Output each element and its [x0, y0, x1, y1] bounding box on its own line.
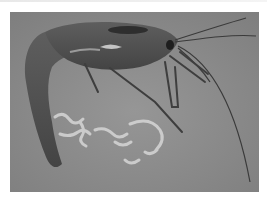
- shrimp-photo: shrimp: [10, 12, 259, 192]
- shrimp-illustration: [10, 12, 259, 192]
- top-edge-mark: [0, 0, 267, 2]
